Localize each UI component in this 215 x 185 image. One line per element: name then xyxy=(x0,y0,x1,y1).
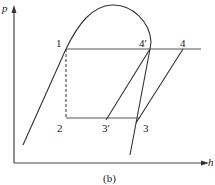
figure-caption: (b) xyxy=(103,173,116,184)
saturation-dome xyxy=(23,5,151,155)
point-4-label: 4 xyxy=(180,38,186,49)
point-3-label: 3 xyxy=(143,123,149,134)
point-2-label: 2 xyxy=(57,123,63,134)
y-axis-label: p xyxy=(2,3,8,14)
axes xyxy=(14,12,203,163)
ph-diagram xyxy=(0,0,215,185)
point-4prime-label: 4′ xyxy=(139,38,147,49)
point-3prime-label: 3′ xyxy=(102,123,110,134)
x-axis-label: h xyxy=(208,157,214,168)
point-1-label: 1 xyxy=(56,38,62,49)
y-axis-arrow-icon xyxy=(12,5,17,13)
